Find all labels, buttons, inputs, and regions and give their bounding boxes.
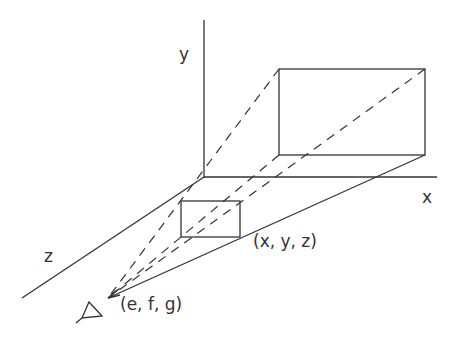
x-axis-label: x — [422, 187, 432, 207]
eye-point-label: (e, f, g) — [120, 294, 182, 314]
perspective-diagram: y x z (x, y, z) (e, f, g) — [0, 0, 449, 339]
projector-line-bottom-left — [108, 155, 279, 298]
object-rectangle — [181, 201, 240, 237]
object-point-label: (x, y, z) — [253, 231, 317, 251]
projector-line-top-right — [108, 69, 425, 298]
eye-triangle-icon — [76, 302, 102, 323]
z-axis — [22, 177, 204, 298]
y-axis-label: y — [179, 44, 189, 64]
z-axis-label: z — [44, 246, 53, 266]
projected-rectangle — [279, 69, 425, 155]
